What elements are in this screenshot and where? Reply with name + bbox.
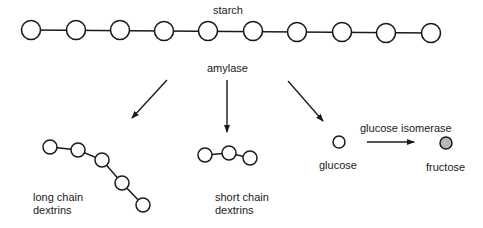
glucose-residue-icon	[199, 22, 218, 41]
fructose-molecule-icon	[440, 137, 452, 149]
arrow-to-glucose-icon	[288, 81, 323, 121]
glucose-residue-icon	[422, 24, 441, 43]
glucose-residue-icon	[288, 23, 307, 42]
glucose-residue-icon	[111, 21, 130, 40]
starch-label: starch	[213, 4, 243, 17]
short-chain-label-line1: short chain	[215, 191, 269, 204]
long-chain-label-line2: dextrins	[33, 204, 72, 217]
glucose-residue-icon	[22, 21, 41, 40]
glucose-residue-icon	[198, 148, 212, 162]
glucose-residue-icon	[71, 143, 85, 157]
glucose-label: glucose	[319, 159, 357, 172]
short-chain-label-line2: dextrins	[215, 204, 254, 217]
glucose-residue-icon	[333, 23, 352, 42]
glucose-residue-icon	[67, 21, 86, 40]
glucose-isomerase-label: glucose isomerase	[360, 122, 452, 135]
glucose-residue-icon	[222, 146, 236, 160]
glucose-residue-icon	[43, 140, 57, 154]
fructose-label: fructose	[426, 161, 465, 174]
glucose-residue-icon	[155, 22, 174, 41]
arrow-to-long-chain-icon	[132, 80, 167, 118]
glucose-residue-icon	[377, 24, 396, 43]
short-chain-dextrin	[198, 146, 257, 165]
glucose-residue-icon	[95, 153, 109, 167]
glucose-residue-icon	[244, 22, 263, 41]
glucose-residue-icon	[115, 176, 129, 190]
starch-chain	[22, 21, 441, 43]
glucose-residue-icon	[136, 198, 150, 212]
long-chain-label-line1: long chain	[33, 191, 83, 204]
glucose-residue-icon	[243, 151, 257, 165]
amylase-label: amylase	[207, 62, 248, 75]
glucose-molecule-icon	[333, 136, 345, 148]
